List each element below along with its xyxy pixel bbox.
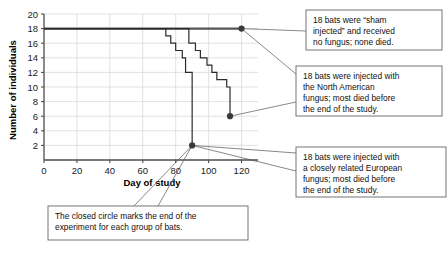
x-tick-label: 20	[72, 165, 83, 176]
north-american-callout: 18 bats were injected withthe North Amer…	[296, 66, 442, 116]
grid-lines	[44, 14, 258, 160]
y-tick-label: 6	[33, 111, 38, 122]
callout-line: injected” and received	[313, 26, 395, 36]
y-axis-title: Number of individuals	[7, 40, 18, 140]
callout-line: a closely related European	[303, 163, 403, 173]
x-tick-label: 40	[105, 165, 116, 176]
closed-circle-callout: The closed circle marks the end of theex…	[48, 206, 248, 240]
x-tick-label: 100	[201, 165, 217, 176]
sham-end-marker	[238, 26, 244, 32]
callout-line: fungus; most died before	[303, 93, 396, 103]
callout-line: 18 bats were injected with	[303, 152, 400, 162]
y-tick-label: 2	[33, 140, 38, 151]
y-tick-label: 20	[27, 9, 38, 20]
callout-line: The closed circle marks the end of the	[55, 211, 197, 221]
callout-line: the end of the study.	[303, 104, 378, 114]
european-callout: 18 bats were injected witha closely rela…	[296, 147, 446, 197]
european-end-marker	[189, 142, 195, 148]
y-tick-label: 18	[27, 23, 38, 34]
y-tick-label: 16	[27, 38, 38, 49]
x-axis-title: Day of study	[123, 177, 181, 188]
x-tick-label: 60	[137, 165, 148, 176]
x-tick-label: 0	[41, 165, 46, 176]
callout-line: 18 bats were “sham	[313, 15, 387, 25]
north-american-end-marker	[227, 113, 233, 119]
sham-callout: 18 bats were “shaminjected” and received…	[306, 10, 442, 50]
callout-line: the end of the study.	[303, 185, 378, 195]
callout-line: no fungus; none died.	[313, 37, 394, 47]
y-tick-label: 12	[27, 67, 38, 78]
y-tick-label: 10	[27, 82, 38, 93]
callout-line: fungus; most died before	[303, 174, 396, 184]
y-tick-label: 14	[27, 52, 38, 63]
y-tick-label: 8	[33, 96, 38, 107]
figure-container: 2468101214161820 020406080100120 Number …	[0, 0, 448, 256]
survival-curve-figure: 2468101214161820 020406080100120 Number …	[0, 0, 448, 256]
callout-line: the North American	[303, 82, 375, 92]
y-tick-label: 4	[33, 125, 38, 136]
x-tick-label: 120	[234, 165, 250, 176]
callout-line: 18 bats were injected with	[303, 71, 400, 81]
callout-line: experiment for each group of bats.	[55, 222, 183, 232]
